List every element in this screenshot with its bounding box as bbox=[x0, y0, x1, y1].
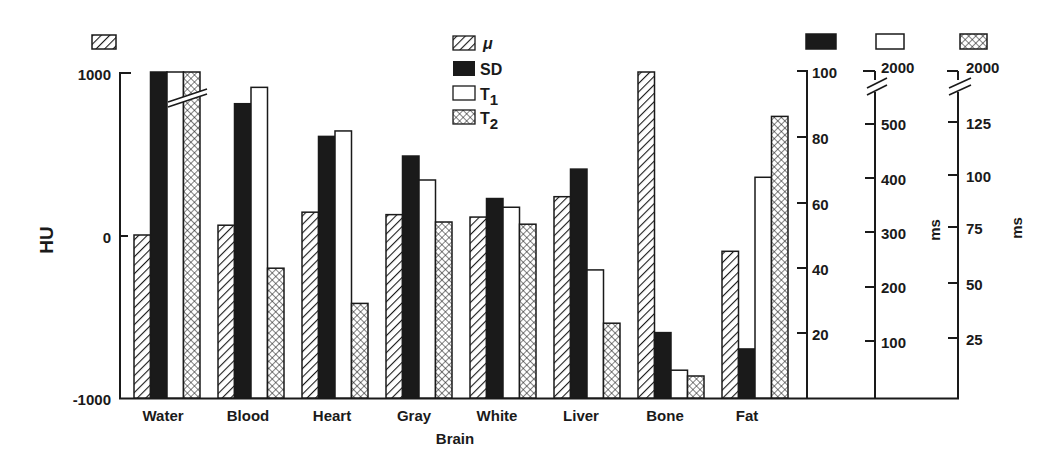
t1-tick-100: 100 bbox=[881, 334, 906, 351]
bar-sd-heart bbox=[319, 136, 336, 398]
legend-label-t2: T2 bbox=[480, 110, 498, 132]
legend-swatch-mu bbox=[453, 36, 475, 50]
sd-tick-40: 40 bbox=[812, 261, 829, 278]
hu-axis-swatch bbox=[92, 35, 116, 49]
t2-tick-75: 75 bbox=[966, 220, 983, 237]
legend-label-mu: μ bbox=[482, 35, 493, 52]
bar-t1-heart bbox=[335, 131, 352, 398]
bar-t1-liver bbox=[587, 270, 604, 398]
t1-axis-unit: ms bbox=[926, 219, 943, 241]
t2-axis-unit: ms bbox=[1008, 217, 1025, 239]
bar-t1-fat bbox=[755, 177, 772, 398]
legend-swatch-t1 bbox=[453, 86, 475, 100]
t2-tick-50: 50 bbox=[966, 276, 983, 293]
bar-sd-bone bbox=[655, 333, 672, 398]
tissue-parameter-chart: μ SD T1 T2 1000 0 -1000 HU 100 80 60 40 … bbox=[0, 0, 1043, 465]
bar-t2-heart bbox=[352, 303, 369, 398]
x-axis-labels: Water Blood Heart Gray White Liver Bone … bbox=[142, 407, 758, 447]
bar-mu-heart bbox=[302, 212, 319, 398]
x-label-heart: Heart bbox=[313, 407, 351, 424]
x-label-water: Water bbox=[142, 407, 183, 424]
x-label-liver: Liver bbox=[563, 407, 599, 424]
bar-sd-white bbox=[487, 199, 504, 398]
x-label-white: White bbox=[477, 407, 518, 424]
legend: μ SD T1 T2 bbox=[453, 35, 502, 132]
bar-t2-blood bbox=[268, 268, 285, 398]
hu-axis-label: HU bbox=[36, 226, 57, 253]
bar-sd-fat bbox=[739, 349, 756, 398]
t1-tick-200: 200 bbox=[881, 279, 906, 296]
sd-axis bbox=[797, 71, 808, 399]
sd-tick-60: 60 bbox=[812, 196, 829, 213]
hu-tick-1000: 1000 bbox=[78, 66, 111, 83]
bar-mu-fat bbox=[722, 251, 739, 398]
bar-mu-water bbox=[134, 235, 151, 398]
bar-sd-liver bbox=[571, 169, 588, 398]
bar-t2-fat bbox=[772, 116, 789, 398]
bar-t1-water bbox=[167, 72, 184, 398]
t1-tick-2000: 2000 bbox=[881, 59, 914, 76]
sd-tick-80: 80 bbox=[812, 130, 829, 147]
x-sublabel-brain: Brain bbox=[436, 430, 474, 447]
bar-t1-gray bbox=[419, 180, 436, 398]
bar-sd-water bbox=[151, 72, 168, 398]
bar-t1-white bbox=[503, 207, 520, 398]
bar-sd-gray bbox=[403, 156, 420, 398]
bar-mu-white bbox=[470, 217, 487, 398]
legend-swatch-sd bbox=[453, 61, 475, 76]
t1-axis-swatch bbox=[876, 34, 904, 49]
bar-t2-gray bbox=[436, 222, 453, 398]
legend-label-sd: SD bbox=[480, 61, 502, 78]
bar-t2-water bbox=[184, 72, 201, 398]
x-label-bone: Bone bbox=[646, 407, 684, 424]
x-label-gray: Gray bbox=[397, 407, 432, 424]
hu-tick-neg1000: -1000 bbox=[73, 391, 111, 408]
t2-tick-100: 100 bbox=[966, 168, 991, 185]
t1-tick-400: 400 bbox=[881, 171, 906, 188]
hu-axis bbox=[120, 72, 131, 399]
bar-mu-bone bbox=[638, 72, 655, 398]
t1-tick-300: 300 bbox=[881, 225, 906, 242]
bar-t2-white bbox=[520, 224, 537, 398]
sd-tick-100: 100 bbox=[812, 64, 837, 81]
t2-tick-2000: 2000 bbox=[966, 59, 999, 76]
t2-tick-25: 25 bbox=[966, 331, 983, 348]
bar-mu-blood bbox=[218, 225, 235, 398]
bar-t1-blood bbox=[251, 87, 268, 398]
sd-tick-20: 20 bbox=[812, 326, 829, 343]
bar-t1-bone bbox=[671, 370, 688, 398]
t2-tick-125: 125 bbox=[966, 115, 991, 132]
bar-sd-blood bbox=[235, 104, 252, 398]
x-label-blood: Blood bbox=[227, 407, 270, 424]
hu-tick-0: 0 bbox=[103, 229, 111, 246]
legend-label-t1: T1 bbox=[480, 86, 498, 108]
bar-t2-bone bbox=[688, 376, 705, 398]
bar-mu-gray bbox=[386, 215, 403, 398]
legend-swatch-t2 bbox=[453, 110, 475, 124]
x-label-fat: Fat bbox=[736, 407, 759, 424]
t2-axis-swatch bbox=[960, 34, 987, 49]
sd-axis-swatch bbox=[806, 34, 836, 49]
bar-t2-liver bbox=[604, 323, 621, 398]
t1-tick-500: 500 bbox=[881, 116, 906, 133]
bar-mu-liver bbox=[554, 197, 571, 398]
